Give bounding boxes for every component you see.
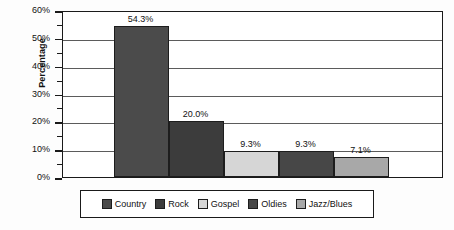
y-axis-tick-label: 50% (4, 33, 50, 43)
legend-label: Country (115, 199, 147, 209)
y-axis-tick-mark (55, 11, 62, 13)
y-axis-tick-mark (55, 178, 62, 180)
legend-item-jazz-blues[interactable]: Jazz/Blues (296, 199, 353, 209)
y-axis-tick-label: 20% (4, 116, 50, 126)
y-axis-tick-mark (55, 150, 62, 152)
value-label-country: 54.3% (105, 14, 176, 24)
bar-chart: Percentage 60%50%40%30%20%10%0% 54.3%20.… (0, 0, 454, 230)
y-axis-tick-label: 30% (4, 89, 50, 99)
legend-item-oldies[interactable]: Oldies (248, 199, 287, 209)
y-axis-tick-label: 60% (4, 5, 50, 15)
bar-rock (169, 121, 224, 177)
legend-label: Rock (168, 199, 189, 209)
legend-item-gospel[interactable]: Gospel (198, 199, 240, 209)
legend-swatch-icon (198, 199, 208, 209)
y-axis-tick-label: 10% (4, 144, 50, 154)
legend-label: Jazz/Blues (309, 199, 353, 209)
legend-item-country[interactable]: Country (102, 199, 147, 209)
chart-legend: CountryRockGospelOldiesJazz/Blues (80, 190, 374, 218)
bar-gospel (224, 151, 279, 177)
bar-country (114, 26, 169, 177)
legend-item-rock[interactable]: Rock (155, 199, 189, 209)
legend-label: Oldies (261, 199, 287, 209)
y-axis-tick-mark (55, 122, 62, 124)
y-axis-tick-mark (55, 39, 62, 41)
legend-label: Gospel (211, 199, 240, 209)
legend-swatch-icon (296, 199, 306, 209)
legend-swatch-icon (102, 199, 112, 209)
y-axis-tick-mark (55, 67, 62, 69)
bar-jazz-blues (334, 157, 389, 177)
value-label-rock: 20.0% (160, 109, 231, 119)
y-axis-tick-mark (55, 95, 62, 97)
y-axis-tick-label: 0% (4, 172, 50, 182)
legend-swatch-icon (155, 199, 165, 209)
value-label-jazz-blues: 7.1% (325, 145, 396, 155)
legend-swatch-icon (248, 199, 258, 209)
y-axis-tick-label: 40% (4, 61, 50, 71)
